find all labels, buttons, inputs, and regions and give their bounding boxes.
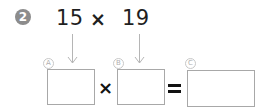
left-operand: 15 bbox=[56, 6, 84, 30]
problem-number-badge: 2 bbox=[15, 9, 31, 25]
circled-label-a: A bbox=[43, 58, 54, 69]
circled-label-b: B bbox=[113, 58, 124, 69]
operator-multiply: × bbox=[90, 7, 106, 31]
circled-label-c: C bbox=[185, 58, 196, 69]
answer-box-a[interactable] bbox=[47, 69, 95, 105]
arrow-down-icon bbox=[134, 34, 145, 68]
answer-box-c[interactable] bbox=[187, 70, 255, 107]
multiply-sign: × bbox=[98, 78, 113, 98]
right-operand: 19 bbox=[122, 6, 150, 30]
equals-sign bbox=[168, 84, 181, 96]
answer-box-b[interactable] bbox=[117, 69, 165, 105]
arrow-down-icon bbox=[67, 34, 78, 68]
